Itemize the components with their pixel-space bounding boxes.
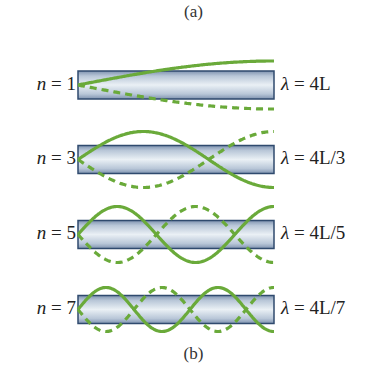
mode-label-n3: n = 3 [37, 147, 76, 169]
wavelength-label-n3: λ = 4L/3 [281, 147, 345, 169]
wavelength-label-n5: λ = 4L/5 [281, 222, 345, 244]
tube-n3 [78, 146, 274, 174]
tube-n1 [78, 71, 274, 99]
wavelength-label-n1: λ = 4L [281, 73, 331, 95]
standing-wave-diagram [0, 0, 387, 381]
caption-b: (b) [0, 344, 387, 364]
wavelength-label-n7: λ = 4L/7 [281, 297, 345, 319]
mode-label-n5: n = 5 [37, 222, 76, 244]
mode-label-n1: n = 1 [37, 73, 76, 95]
mode-label-n7: n = 7 [37, 297, 76, 319]
